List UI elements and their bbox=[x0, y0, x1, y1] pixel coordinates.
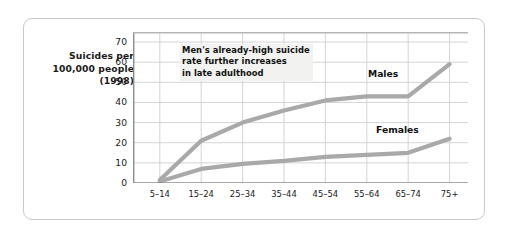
annotation-males-note: Men's already-high suicide rate further … bbox=[180, 44, 313, 81]
y-tick-label: 50 bbox=[101, 76, 127, 87]
x-tick-label: 75+ bbox=[441, 189, 459, 199]
series-line-females bbox=[160, 139, 450, 182]
x-tick-label: 45–54 bbox=[313, 189, 339, 199]
y-tick-label: 0 bbox=[101, 177, 127, 188]
x-tick-label: 5–14 bbox=[150, 189, 170, 199]
x-tick-label: 35–44 bbox=[271, 189, 297, 199]
x-tick-label: 65–74 bbox=[395, 189, 421, 199]
y-tick-label: 70 bbox=[101, 36, 127, 47]
series-label-females: Females bbox=[376, 124, 419, 135]
y-tick-label: 40 bbox=[101, 96, 127, 107]
x-tick-label: 25–34 bbox=[230, 189, 256, 199]
x-tick-label: 15–24 bbox=[188, 189, 214, 199]
x-tick-label: 55–64 bbox=[354, 189, 380, 199]
annotation-line-2: rate further increases bbox=[182, 56, 310, 67]
annotation-line-3: in late adulthood bbox=[182, 68, 310, 79]
y-tick-label: 30 bbox=[101, 117, 127, 128]
annotation-line-1: Men's already-high suicide bbox=[182, 45, 310, 56]
y-tick-label: 60 bbox=[101, 56, 127, 67]
series-label-males: Males bbox=[368, 68, 398, 79]
y-tick-label: 20 bbox=[101, 137, 127, 148]
chart-figure: Suicides per 100,000 people (1998) 01020… bbox=[0, 0, 507, 240]
y-tick-label: 10 bbox=[101, 157, 127, 168]
